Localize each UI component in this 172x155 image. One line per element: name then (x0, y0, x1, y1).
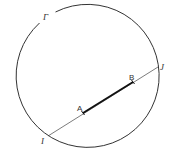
point-label-j: J (160, 62, 165, 72)
circle-label: Γ (42, 12, 49, 22)
point-label-i: I (40, 136, 45, 146)
point-label-b: B (129, 73, 134, 82)
circle-gamma (16, 4, 159, 147)
geometry-diagram: Γ J I A B (0, 0, 172, 155)
segment-ab (83, 82, 133, 113)
point-label-a: A (77, 104, 83, 113)
